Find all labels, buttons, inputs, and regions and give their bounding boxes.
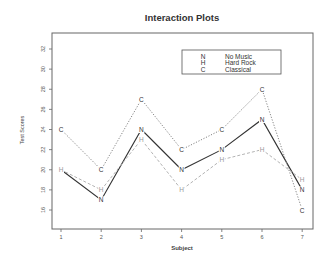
data-point-marker: N xyxy=(139,126,144,133)
x-tick-label: 1 xyxy=(59,234,62,240)
series-classical: CCCCCCC xyxy=(58,86,305,214)
x-axis: 1234567 xyxy=(59,229,303,240)
y-axis-label: Test Scores xyxy=(19,115,25,144)
x-tick-label: 7 xyxy=(301,234,304,240)
data-point-marker: C xyxy=(300,207,305,214)
interaction-plot: Interaction Plots 161820222426283032 123… xyxy=(0,0,332,268)
y-tick-label: 24 xyxy=(40,126,46,132)
data-point-marker: H xyxy=(99,186,104,193)
y-tick-label: 18 xyxy=(40,187,46,193)
data-point-marker: C xyxy=(260,86,265,93)
data-point-marker: H xyxy=(300,176,305,183)
legend-label: Classical xyxy=(225,66,252,73)
y-tick-label: 26 xyxy=(40,106,46,112)
chart-title: Interaction Plots xyxy=(145,12,219,23)
data-point-marker: C xyxy=(59,126,64,133)
data-point-marker: N xyxy=(99,196,104,203)
x-tick-label: 6 xyxy=(260,234,263,240)
y-tick-label: 28 xyxy=(40,86,46,92)
x-tick-label: 2 xyxy=(100,234,103,240)
data-point-marker: H xyxy=(219,156,224,163)
x-tick-label: 3 xyxy=(140,234,143,240)
data-point-marker: N xyxy=(179,166,184,173)
y-tick-label: 32 xyxy=(40,46,46,52)
legend-symbol: C xyxy=(201,66,206,73)
data-point-marker: C xyxy=(139,96,144,103)
x-axis-label: Subject xyxy=(171,245,193,251)
series-hard-rock: HHHHHHH xyxy=(58,136,305,193)
data-point-marker: C xyxy=(99,166,104,173)
series-group: NNNNNNNHHHHHHHCCCCCCC xyxy=(58,86,305,214)
data-point-marker: C xyxy=(179,146,184,153)
data-point-marker: N xyxy=(300,186,305,193)
y-tick-label: 22 xyxy=(40,147,46,153)
data-point-marker: H xyxy=(260,146,265,153)
data-point-marker: H xyxy=(139,136,144,143)
data-point-marker: N xyxy=(219,146,224,153)
y-tick-label: 20 xyxy=(40,167,46,173)
data-point-marker: N xyxy=(260,116,265,123)
data-point-marker: H xyxy=(179,186,184,193)
y-tick-label: 30 xyxy=(40,66,46,72)
data-point-marker: H xyxy=(59,166,64,173)
legend: NNo MusicHHard RockCClassical xyxy=(182,50,281,74)
y-axis: 161820222426283032 xyxy=(40,46,52,213)
x-tick-label: 5 xyxy=(220,234,223,240)
data-point-marker: C xyxy=(219,126,224,133)
x-tick-label: 4 xyxy=(180,234,183,240)
y-tick-label: 16 xyxy=(40,207,46,213)
